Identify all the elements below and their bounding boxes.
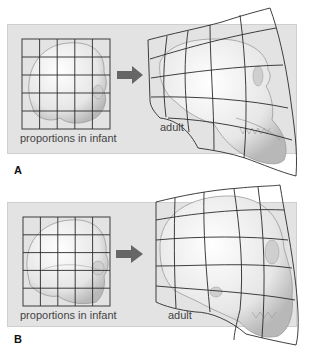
panel-b-label: B bbox=[14, 333, 22, 345]
panel-a-adult-skull bbox=[160, 39, 286, 164]
panel-b-infant-caption: proportions in infant bbox=[20, 309, 117, 321]
right-arrow-icon bbox=[116, 245, 143, 263]
panel-a-label: A bbox=[14, 164, 22, 176]
panel-b-adult-caption: adult bbox=[168, 309, 192, 321]
diagram-canvas bbox=[0, 0, 310, 353]
right-arrow-icon bbox=[117, 66, 143, 84]
panel-a-adult-caption: adult bbox=[160, 121, 184, 133]
panel-b-infant-skull bbox=[27, 220, 108, 304]
panel-a-infant-caption: proportions in infant bbox=[20, 132, 117, 144]
